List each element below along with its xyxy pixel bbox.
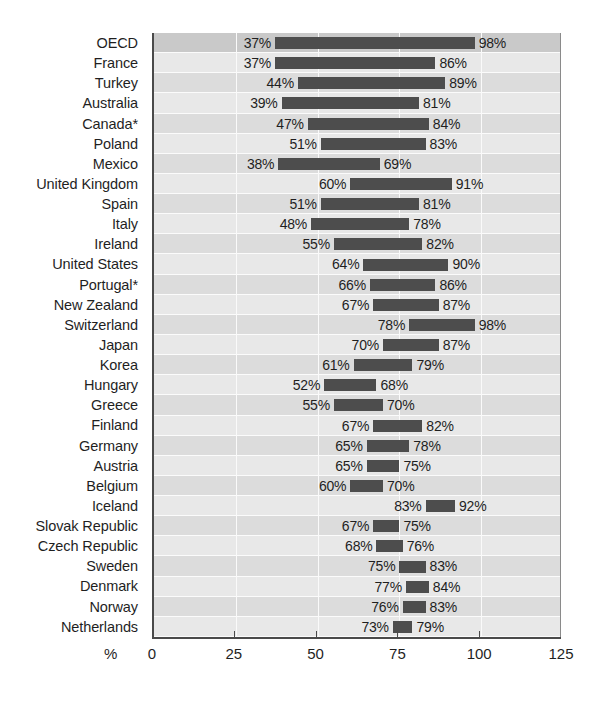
bar-high-value-label: 83% — [426, 134, 457, 154]
range-bar — [406, 581, 429, 593]
bar-row: 67%75% — [154, 516, 560, 536]
bar-row: 67%87% — [154, 295, 560, 315]
bar-row: 73%79% — [154, 617, 560, 637]
bar-low-value-label: 83% — [394, 496, 425, 516]
category-label: Korea — [0, 355, 146, 375]
bar-high-value-label: 81% — [419, 194, 450, 214]
range-bar — [334, 238, 422, 250]
bar-row: 77%84% — [154, 577, 560, 597]
bar-low-value-label: 66% — [339, 275, 370, 295]
range-bar — [324, 379, 376, 391]
bar-high-value-label: 69% — [380, 154, 411, 174]
bar-high-value-label: 81% — [419, 93, 450, 113]
x-axis-line — [152, 637, 561, 639]
bar-high-value-label: 91% — [452, 174, 483, 194]
bar-low-value-label: 60% — [319, 476, 350, 496]
bar-low-value-label: 65% — [335, 436, 366, 456]
bar-row: 51%83% — [154, 134, 560, 154]
bar-high-value-label: 87% — [439, 335, 470, 355]
bar-low-value-label: 70% — [352, 335, 383, 355]
x-axis-tick-label: 25 — [225, 645, 242, 662]
bar-high-value-label: 98% — [475, 315, 506, 335]
range-bar — [426, 500, 455, 512]
category-label: Spain — [0, 194, 146, 214]
bar-high-value-label: 76% — [403, 536, 434, 556]
bar-low-value-label: 51% — [289, 134, 320, 154]
x-axis-tick — [316, 631, 317, 637]
bar-row: 76%83% — [154, 597, 560, 617]
bar-low-value-label: 67% — [342, 416, 373, 436]
range-bar — [393, 621, 413, 633]
category-label: Hungary — [0, 375, 146, 395]
bar-row: 78%98% — [154, 315, 560, 335]
range-bar — [370, 279, 435, 291]
bar-row: 67%82% — [154, 416, 560, 436]
range-bar — [373, 420, 422, 432]
category-label: Finland — [0, 415, 146, 435]
bar-row: 37%98% — [154, 33, 560, 53]
bar-row: 70%87% — [154, 335, 560, 355]
bar-low-value-label: 37% — [244, 53, 275, 73]
category-label: France — [0, 53, 146, 73]
plot-area: 37%98%37%86%44%89%39%81%47%84%51%83%38%6… — [152, 33, 561, 637]
x-axis-tick-label: 0 — [148, 645, 156, 662]
bar-row: 64%90% — [154, 254, 560, 274]
bar-row: 37%86% — [154, 53, 560, 73]
category-label: Denmark — [0, 576, 146, 596]
range-bar — [334, 399, 383, 411]
bar-low-value-label: 51% — [289, 194, 320, 214]
bar-low-value-label: 76% — [371, 597, 402, 617]
bar-high-value-label: 84% — [429, 577, 460, 597]
bar-low-value-label: 78% — [378, 315, 409, 335]
x-axis-tick-label: 75 — [389, 645, 406, 662]
bar-low-value-label: 75% — [368, 556, 399, 576]
bar-high-value-label: 68% — [376, 375, 407, 395]
x-axis-tick — [479, 631, 480, 637]
x-axis-tick-label: 100 — [467, 645, 492, 662]
range-bar — [363, 259, 448, 271]
x-axis-tick — [397, 631, 398, 637]
category-label: Netherlands — [0, 617, 146, 637]
bar-high-value-label: 78% — [409, 436, 440, 456]
bar-low-value-label: 64% — [332, 254, 363, 274]
range-bar — [275, 57, 435, 69]
category-label: Greece — [0, 395, 146, 415]
bar-high-value-label: 79% — [412, 617, 443, 637]
x-axis-tick-label: 125 — [548, 645, 573, 662]
bar-low-value-label: 37% — [244, 33, 275, 53]
bar-row: 61%79% — [154, 355, 560, 375]
range-bar — [383, 339, 439, 351]
category-label: Ireland — [0, 234, 146, 254]
category-axis-labels: OECDFranceTurkeyAustraliaCanada*PolandMe… — [0, 33, 146, 637]
range-bar — [350, 480, 383, 492]
range-bar — [373, 299, 438, 311]
range-bar — [354, 359, 413, 371]
bar-low-value-label: 47% — [276, 114, 307, 134]
category-label: OECD — [0, 33, 146, 53]
bar-high-value-label: 86% — [435, 53, 466, 73]
bar-high-value-label: 89% — [445, 73, 476, 93]
category-label: Canada* — [0, 114, 146, 134]
x-axis-tick-label: 50 — [307, 645, 324, 662]
bar-low-value-label: 61% — [322, 355, 353, 375]
range-bar — [376, 540, 402, 552]
bar-high-value-label: 83% — [426, 597, 457, 617]
bar-low-value-label: 55% — [303, 234, 334, 254]
range-bar — [278, 158, 379, 170]
range-bar — [409, 319, 474, 331]
bar-high-value-label: 92% — [455, 496, 486, 516]
range-bar — [321, 138, 426, 150]
bar-high-value-label: 87% — [439, 295, 470, 315]
bar-low-value-label: 65% — [335, 456, 366, 476]
x-axis-tick — [234, 631, 235, 637]
range-bar — [321, 198, 419, 210]
bar-high-value-label: 82% — [422, 234, 453, 254]
category-label: Belgium — [0, 476, 146, 496]
bar-high-value-label: 86% — [435, 275, 466, 295]
range-bar — [308, 118, 429, 130]
bar-low-value-label: 38% — [247, 154, 278, 174]
bar-row: 60%91% — [154, 174, 560, 194]
bar-row: 47%84% — [154, 114, 560, 134]
bar-row: 38%69% — [154, 154, 560, 174]
bar-low-value-label: 67% — [342, 295, 373, 315]
